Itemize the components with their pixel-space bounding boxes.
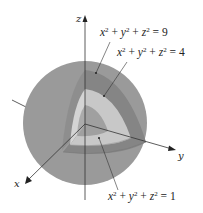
z-axis-label: z — [75, 13, 82, 24]
z-axis-arrowhead — [83, 15, 88, 22]
leader-dot-9 — [95, 72, 97, 74]
x-axis-back — [12, 100, 26, 107]
level-surfaces-diagram: z y x x2 + y2 + z2 = 9 x2 + y2 + z2 = 4 … — [0, 0, 203, 213]
leader-dot-1 — [98, 137, 100, 139]
equation-label-9: x2 + y2 + z2 = 9 — [99, 26, 168, 39]
y-axis-label: y — [177, 150, 184, 161]
x-axis-label: x — [14, 178, 20, 189]
equation-label-1: x2 + y2 + z2 = 1 — [107, 190, 176, 203]
leader-dot-4 — [103, 95, 105, 97]
equation-label-4: x2 + y2 + z2 = 4 — [116, 46, 185, 59]
y-axis-arrowhead — [168, 146, 176, 152]
